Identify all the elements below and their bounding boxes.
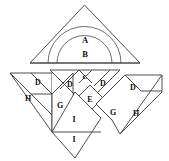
geometric-figure: A B D H G D C D E I I D G H [0, 0, 169, 161]
center-d-right [94, 70, 110, 86]
triangle-face [30, 5, 140, 63]
center-d-left [60, 70, 79, 89]
left-outer-group [10, 73, 52, 132]
top-triangle-group [30, 5, 140, 63]
figure-canvas [0, 0, 169, 161]
